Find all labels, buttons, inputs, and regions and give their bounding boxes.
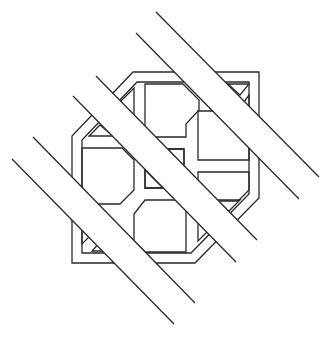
top-cell — [145, 84, 199, 137]
diagonal-bands — [12, 12, 319, 324]
diagram-canvas: Interlaced geometric lattice with diagon… — [0, 0, 330, 339]
band-edge-1 — [156, 12, 319, 177]
lattice-figure — [0, 0, 330, 339]
bottom-cell — [134, 200, 186, 252]
band-edge-2 — [12, 159, 174, 324]
